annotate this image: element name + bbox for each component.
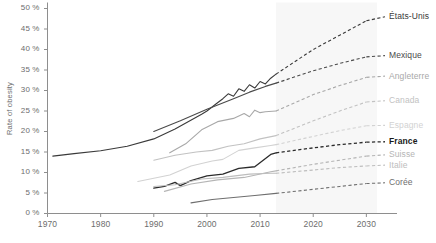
historical-line <box>154 153 276 188</box>
y-tick-label: 35 % <box>6 65 40 74</box>
x-tick-label: 2020 <box>293 219 333 229</box>
series-label-france: France <box>389 136 417 146</box>
series-label-italie: Italie <box>389 160 408 170</box>
y-tick-label: 30 % <box>6 85 40 94</box>
historical-line <box>170 110 276 153</box>
chart-canvas <box>0 0 436 243</box>
historical-line <box>154 83 276 131</box>
y-tick-label: 10 % <box>6 167 40 176</box>
y-tick-label: 5 % <box>6 188 40 197</box>
y-tick-label: 15 % <box>6 147 40 156</box>
historical-line <box>191 193 276 202</box>
series-label-canada: Canada <box>389 95 419 105</box>
series-label-suisse: Suisse <box>389 149 415 159</box>
y-tick-label: 45 % <box>6 24 40 33</box>
series-label-espagne: Espagne <box>389 120 423 130</box>
x-tick-label: 1990 <box>134 219 174 229</box>
projection-shading <box>276 3 377 214</box>
x-tick-label: 1980 <box>81 219 121 229</box>
x-tick-label: 2030 <box>346 219 386 229</box>
x-tick-label: 2010 <box>240 219 280 229</box>
y-tick-label: 0 % <box>6 208 40 217</box>
obesity-projection-chart: Rate of obesity 50 %45 %40 %35 %30 %25 %… <box>0 0 436 243</box>
series-label-angleterre: Angleterre <box>389 71 429 81</box>
x-tick-label: 2000 <box>187 219 227 229</box>
series-label-cor-e: Corée <box>389 177 413 187</box>
y-tick-label: 20 % <box>6 126 40 135</box>
x-tick-label: 1970 <box>28 219 68 229</box>
series-label--tats-unis: États-Unis <box>389 11 429 21</box>
y-tick-label: 50 % <box>6 3 40 12</box>
series-label-mexique: Mexique <box>389 50 422 60</box>
y-tick-label: 40 % <box>6 44 40 53</box>
y-tick-label: 25 % <box>6 106 40 115</box>
